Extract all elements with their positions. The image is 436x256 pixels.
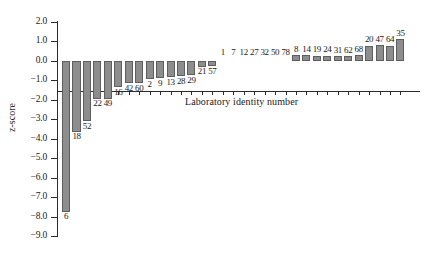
bar-category-label: 18 [66, 132, 88, 141]
bar [355, 55, 363, 60]
y-tick [51, 178, 57, 179]
x-tick [338, 91, 339, 95]
bar [156, 61, 164, 79]
bar [334, 56, 342, 61]
x-tick [212, 91, 213, 95]
y-axis-title: z-score [6, 85, 17, 151]
y-tick-label: −9.0 [7, 231, 47, 241]
bar [146, 61, 154, 79]
y-tick [51, 100, 57, 101]
x-tick [296, 91, 297, 95]
y-tick-label: −6.0 [7, 173, 47, 183]
bar [83, 61, 91, 121]
y-tick-label: 2.0 [7, 17, 47, 27]
y-tick-label: −8.0 [7, 212, 47, 222]
x-tick [390, 91, 391, 95]
x-tick [327, 91, 328, 95]
y-tick [51, 197, 57, 198]
bar-category-label: 49 [97, 99, 119, 108]
x-tick [181, 91, 182, 95]
x-tick [380, 91, 381, 95]
bar [167, 61, 175, 78]
x-tick [254, 91, 255, 95]
x-tick [369, 91, 370, 95]
bar [376, 45, 384, 61]
y-tick [51, 41, 57, 42]
y-tick-label: 1.0 [7, 36, 47, 46]
bar [125, 61, 133, 83]
bar-category-label: 57 [201, 67, 223, 76]
x-axis-title: Laboratory identity number [185, 96, 298, 107]
bar [396, 39, 404, 61]
x-tick [275, 91, 276, 95]
x-tick [359, 91, 360, 95]
bar [292, 55, 300, 61]
x-tick [400, 91, 401, 95]
bar [177, 61, 185, 77]
y-tick [51, 158, 57, 159]
x-tick [160, 91, 161, 95]
y-tick-label: 0.0 [7, 56, 47, 66]
bar-category-label: 35 [389, 29, 411, 38]
y-tick [51, 139, 57, 140]
x-tick [202, 91, 203, 95]
x-tick [191, 91, 192, 95]
bar [365, 46, 373, 61]
y-tick-label: −7.0 [7, 192, 47, 202]
x-tick [306, 91, 307, 95]
bar-category-label: 6 [55, 212, 77, 221]
bar [323, 56, 331, 61]
bar [302, 55, 310, 60]
x-tick [233, 91, 234, 95]
x-tick [265, 91, 266, 95]
y-tick [51, 236, 57, 237]
y-tick [51, 61, 57, 62]
bar-category-label: 52 [76, 122, 98, 131]
y-tick-label: −1.0 [7, 75, 47, 85]
x-tick [317, 91, 318, 95]
bar [93, 61, 101, 99]
bar-category-label: 29 [180, 76, 202, 85]
chart-figure: 2.01.00.0−1.0−2.0−3.0−4.0−5.0−6.0−7.0−8.… [0, 0, 436, 256]
y-tick [51, 80, 57, 81]
x-tick [286, 91, 287, 95]
x-tick [223, 91, 224, 95]
bar [344, 56, 352, 61]
y-axis-line [57, 21, 58, 237]
bar [313, 56, 321, 61]
y-tick-label: −5.0 [7, 153, 47, 163]
y-tick [51, 119, 57, 120]
x-tick [348, 91, 349, 95]
bar [386, 46, 394, 61]
x-tick [171, 91, 172, 95]
x-tick [244, 91, 245, 95]
y-tick [51, 22, 57, 23]
